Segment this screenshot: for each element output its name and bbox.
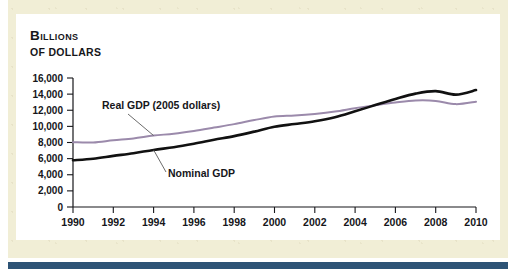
y-tick-labels: 02,0004,0006,0008,00010,00012,00014,0001… — [32, 73, 63, 213]
x-tick-marks — [73, 207, 476, 213]
y-tick-label: 12,000 — [32, 105, 63, 116]
line-chart-plot: 02,0004,0006,0008,00010,00012,00014,0001… — [16, 14, 500, 240]
chart-panel: Billions of dollars 02,0004,0006,0008,00… — [16, 14, 500, 240]
x-tick-label: 1998 — [223, 216, 247, 228]
y-tick-label: 2,000 — [38, 185, 63, 196]
y-tick-label: 16,000 — [32, 73, 63, 84]
gdp-figure: Billions of dollars 02,0004,0006,0008,00… — [0, 0, 525, 279]
series-annotation-label: Nominal GDP — [168, 167, 235, 179]
y-tick-label: 14,000 — [32, 89, 63, 100]
x-tick-label: 2010 — [464, 216, 488, 228]
navy-divider-rule — [8, 262, 508, 269]
x-tick-label: 1994 — [142, 216, 166, 228]
x-tick-label: 2000 — [263, 216, 287, 228]
x-tick-label: 2002 — [303, 216, 327, 228]
x-tick-label: 2006 — [384, 216, 408, 228]
x-axis-group: 1990199219941996199820002002200420062008… — [61, 207, 488, 228]
y-tick-label: 0 — [57, 202, 63, 213]
x-tick-label: 2008 — [424, 216, 448, 228]
x-tick-label: 1996 — [182, 216, 206, 228]
y-tick-label: 10,000 — [32, 121, 63, 132]
x-tick-label: 2004 — [343, 216, 367, 228]
x-tick-label: 1990 — [61, 216, 85, 228]
y-axis-group: 02,0004,0006,0008,00010,00012,00014,0001… — [32, 73, 73, 213]
y-tick-label: 4,000 — [38, 169, 63, 180]
y-tick-label: 8,000 — [38, 137, 63, 148]
x-tick-labels: 1990199219941996199820002002200420062008… — [61, 216, 488, 228]
x-tick-label: 1992 — [102, 216, 126, 228]
annotation-leader-line — [128, 114, 154, 136]
annotation-leader-line — [154, 150, 166, 172]
series-annotation-label: Real GDP (2005 dollars) — [102, 99, 220, 111]
y-tick-label: 6,000 — [38, 153, 63, 164]
